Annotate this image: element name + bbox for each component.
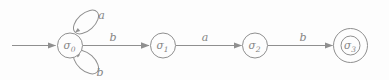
state-subscript: 2 (255, 45, 261, 54)
state-sigma3: σ3 (334, 29, 368, 63)
automaton-diagram: a b b a b σ0 σ1 (0, 0, 389, 80)
state-sigma0: σ0 (58, 33, 83, 58)
transition-label-loop-b: b (96, 66, 103, 79)
transition-label-loop-a: a (98, 9, 105, 22)
transition-label-b2: b (299, 31, 306, 44)
transition-sigma2-sigma3: b (268, 31, 333, 46)
transition-label-a: a (202, 31, 209, 44)
state-subscript: 1 (164, 45, 169, 54)
state-sigma1: σ1 (151, 33, 176, 58)
state-sigma2: σ2 (243, 33, 268, 58)
automaton-svg: a b b a b σ0 σ1 (0, 0, 389, 80)
state-subscript: 0 (71, 45, 76, 54)
state-subscript: 3 (351, 45, 356, 54)
transition-label-b1: b (109, 31, 116, 44)
transition-sigma1-sigma2: a (176, 31, 242, 46)
transition-sigma0-sigma1: b (83, 31, 149, 46)
self-loop-top-arrowhead-icon (75, 28, 80, 33)
